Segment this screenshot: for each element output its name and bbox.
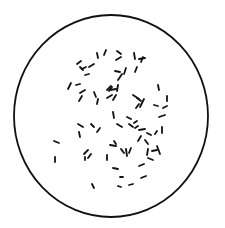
rod-bacterium (159, 115, 165, 117)
rod-bacterium (77, 61, 81, 64)
rod-bacterium (113, 168, 118, 169)
rod-bacterium (97, 99, 98, 104)
rod-bacterium (110, 89, 116, 90)
rod-bacterium (147, 133, 151, 135)
rod-bacterium (68, 83, 71, 89)
microscope-field-figure (0, 0, 225, 228)
rod-bacterium (82, 67, 86, 69)
rod-bacterium (124, 68, 126, 74)
rod-bacterium (97, 53, 98, 58)
rod-bacterium (84, 150, 88, 154)
rod-bacterium (116, 57, 121, 60)
rod-bacterium (137, 98, 141, 101)
rod-bacterium (127, 117, 131, 119)
rod-bacterium (88, 154, 91, 158)
rod-bacterium (110, 145, 116, 146)
rod-bacterium (115, 71, 120, 72)
rod-bacterium (134, 53, 135, 59)
rod-bacterium (139, 164, 144, 166)
rod-bacterium (139, 58, 145, 59)
rod-bacterium (85, 74, 89, 75)
rod-bacterium (104, 50, 106, 55)
rod-bacterium (89, 64, 94, 67)
rod-bacterium (113, 112, 114, 118)
rod-bacterium (54, 141, 59, 143)
rod-bacterium (135, 126, 138, 128)
rod-bacterium (114, 141, 116, 144)
microscope-field-drawing (0, 0, 225, 228)
rod-bacterium (97, 128, 100, 132)
rod-bacterium (145, 140, 148, 144)
rod-bacterium (118, 74, 122, 80)
rod-bacterium (117, 51, 121, 54)
rod-bacterium (113, 95, 116, 100)
rod-bacterium (129, 148, 131, 153)
rod-bacterium (76, 84, 80, 85)
rod-bacterium (138, 136, 141, 141)
rod-bacterium (147, 149, 148, 155)
rod-bacterium (129, 124, 133, 127)
rod-bacterium (118, 186, 121, 187)
rod-bacterium (148, 158, 153, 160)
rod-bacterium (155, 131, 157, 134)
rod-bacterium (107, 95, 112, 98)
rod-bacterium (117, 124, 122, 127)
rod-bacterium (158, 85, 159, 90)
rod-bacterium (94, 92, 96, 97)
rod-bacterium (154, 105, 158, 106)
rod-bacterium (79, 132, 80, 137)
rod-bacterium (126, 149, 127, 156)
rod-bacterium (91, 124, 94, 127)
rod-bacterium (141, 176, 146, 178)
rod-bacterium (163, 106, 167, 108)
rod-bacterium (78, 124, 83, 127)
rod-bacterium (79, 96, 82, 101)
rod-bacterium (117, 85, 118, 91)
rod-bacterium (129, 184, 133, 185)
field-of-view-circle (14, 15, 208, 217)
rod-bacterium (80, 90, 85, 93)
rod-bacterium (134, 121, 137, 123)
rod-bacterium (139, 129, 145, 130)
rod-bacterium (121, 149, 124, 153)
rod-bacterium (152, 150, 157, 151)
rod-bacterium (92, 184, 94, 188)
rod-bacterium (136, 104, 139, 108)
rod-bacterium (135, 67, 137, 72)
rod-bacteria-group (54, 50, 167, 188)
